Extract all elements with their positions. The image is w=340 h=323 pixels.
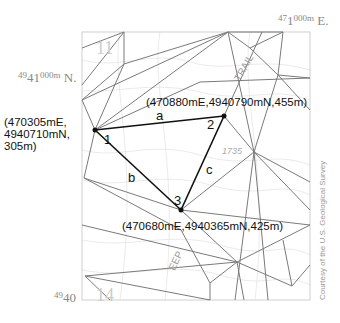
- point-3-coords: (470680mE,4940365mN,425m): [122, 220, 283, 232]
- topographic-map: [0, 0, 340, 323]
- side-a-label: a: [156, 108, 163, 123]
- point-3-label: 3: [174, 193, 181, 208]
- point-3-marker: [179, 208, 184, 213]
- point-1-coords: (470305mE, 4940710mN, 305m): [4, 116, 70, 152]
- triangle: [95, 116, 224, 210]
- northing-bottom-label: 4940: [54, 290, 76, 306]
- elevation-label: 1735: [222, 145, 242, 157]
- section-14-label: 14: [96, 285, 114, 306]
- point-2-label: 2: [207, 117, 214, 132]
- northing-grid-label: 4941000m N.: [18, 70, 76, 86]
- point-1-label: 1: [104, 132, 111, 147]
- side-b-label: b: [128, 170, 135, 185]
- point-2-coords: (470880mE,4940790mN,455m): [146, 96, 307, 108]
- easting-grid-label: 471000m E.: [278, 13, 328, 29]
- side-c-label: c: [206, 162, 213, 177]
- tin-edges: [82, 32, 310, 300]
- side-c: [181, 116, 224, 210]
- point-2-marker: [222, 114, 227, 119]
- credit-text: Courtesy of the U.S. Geological Survey: [318, 161, 327, 300]
- section-11-label: 11: [96, 38, 113, 59]
- point-1-marker: [93, 128, 98, 133]
